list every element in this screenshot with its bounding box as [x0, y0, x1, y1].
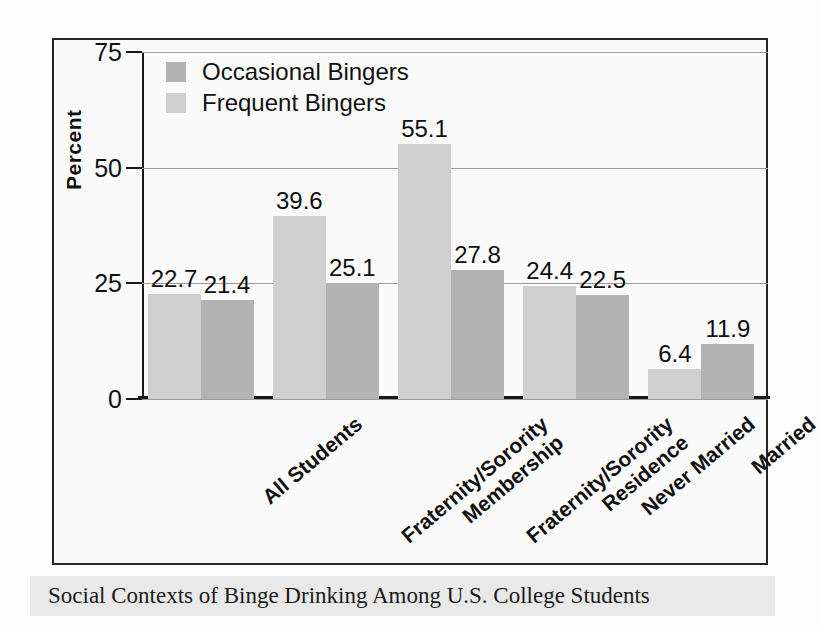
- legend-item-label: Occasional Bingers: [202, 58, 409, 86]
- bar-value-label: 22.7: [151, 265, 198, 293]
- bar-value-label: 39.6: [276, 187, 323, 215]
- y-axis-tick: [126, 51, 142, 53]
- bar-value-label: 6.4: [658, 340, 691, 368]
- bar: 22.5: [576, 295, 629, 399]
- x-axis-label: All Students: [257, 412, 366, 509]
- y-axis-tick: [126, 398, 142, 400]
- y-axis-tick-label: 0: [108, 385, 122, 414]
- x-axis-label-line: All Students: [257, 412, 366, 509]
- chart-figure-frame: Percent 0255075 22.721.439.625.155.127.8…: [52, 38, 768, 565]
- x-axis-label-line: Married: [747, 412, 820, 479]
- caption-text: Social Contexts of Binge Drinking Among …: [30, 583, 650, 609]
- x-axis-label: Married: [747, 412, 820, 479]
- bar: 55.1: [398, 144, 451, 399]
- legend-swatch-icon: [166, 62, 186, 82]
- bar: 27.8: [451, 270, 504, 399]
- legend-item[interactable]: Occasional Bingers: [166, 58, 409, 86]
- caption-bar: Social Contexts of Binge Drinking Among …: [30, 576, 775, 616]
- bar-value-label: 27.8: [454, 241, 501, 269]
- gridline: [142, 168, 768, 169]
- bar-value-label: 22.5: [579, 266, 626, 294]
- y-axis-line: [142, 52, 144, 399]
- bar-value-label: 25.1: [329, 254, 376, 282]
- bar: 39.6: [273, 216, 326, 399]
- chart-legend: Occasional BingersFrequent Bingers: [166, 58, 409, 120]
- legend-swatch-icon: [166, 93, 186, 113]
- bar-value-label: 21.4: [204, 271, 251, 299]
- bar: 24.4: [523, 286, 576, 399]
- bar: 25.1: [326, 283, 379, 399]
- y-axis-tick: [126, 167, 142, 169]
- y-axis-title: Percent: [62, 109, 86, 190]
- bar: 22.7: [148, 294, 201, 399]
- bar: 11.9: [701, 344, 754, 399]
- legend-item-label: Frequent Bingers: [202, 89, 386, 117]
- gridline: [142, 399, 768, 400]
- y-axis-tick: [126, 282, 142, 284]
- bar: 21.4: [201, 300, 254, 399]
- y-axis-tick-label: 75: [94, 38, 122, 67]
- bar-value-label: 24.4: [526, 257, 573, 285]
- bar: 6.4: [648, 369, 701, 399]
- y-axis-tick-label: 25: [94, 269, 122, 298]
- legend-item[interactable]: Frequent Bingers: [166, 89, 409, 117]
- gridline: [142, 52, 768, 53]
- bar-value-label: 11.9: [705, 315, 750, 343]
- y-axis-tick-label: 50: [94, 153, 122, 182]
